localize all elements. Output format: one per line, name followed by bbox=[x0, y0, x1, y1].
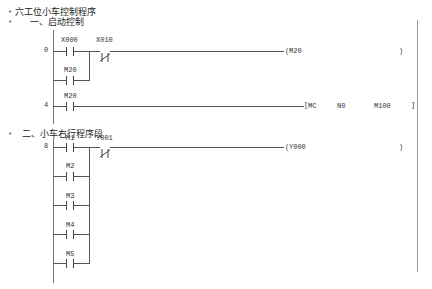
contact-label: M2 bbox=[66, 162, 74, 170]
instruction-arg-m100: M100 bbox=[374, 102, 391, 110]
contact-label: X010 bbox=[96, 36, 113, 44]
section1-comment: 一、启动控制 bbox=[30, 15, 84, 28]
contact-label: M5 bbox=[66, 250, 74, 258]
instruction-mc[interactable]: MC bbox=[308, 102, 316, 110]
contact-label: M4 bbox=[66, 221, 74, 229]
section2-comment: 二、小车右行程序段 bbox=[22, 127, 103, 140]
contact-label: M20 bbox=[64, 66, 77, 74]
comment-bullet: • bbox=[8, 130, 12, 138]
comment-bullet: • bbox=[8, 18, 12, 26]
coil-y000[interactable]: Y000 bbox=[289, 143, 306, 151]
comment-bullet: • bbox=[8, 8, 12, 16]
nc-contact-x010[interactable] bbox=[100, 47, 110, 56]
step-number: 0 bbox=[44, 46, 48, 54]
instruction-arg-n0: N0 bbox=[337, 102, 345, 110]
no-contact-m4[interactable] bbox=[66, 230, 74, 239]
nc-contact-y001[interactable] bbox=[100, 143, 110, 152]
left-power-rail bbox=[53, 30, 54, 124]
contact-label: M1 bbox=[66, 134, 74, 142]
step-number: 4 bbox=[44, 101, 48, 109]
no-contact-x000[interactable] bbox=[66, 47, 74, 56]
no-contact-m2[interactable] bbox=[66, 172, 74, 181]
contact-label: M20 bbox=[64, 92, 77, 100]
no-contact-m3[interactable] bbox=[66, 201, 74, 210]
no-contact-m20[interactable] bbox=[66, 76, 74, 85]
no-contact-m5[interactable] bbox=[66, 259, 74, 268]
no-contact-m1[interactable] bbox=[66, 143, 74, 152]
coil-close-bracket: ) bbox=[399, 143, 403, 151]
instruction-close-bracket: ] bbox=[411, 101, 415, 109]
branch-join bbox=[89, 147, 90, 264]
contact-label: X000 bbox=[61, 36, 78, 44]
contact-label: Y001 bbox=[96, 134, 113, 142]
coil-m20[interactable]: M20 bbox=[289, 47, 302, 55]
right-power-rail bbox=[417, 20, 418, 272]
no-contact-m20[interactable] bbox=[66, 102, 74, 111]
left-power-rail bbox=[53, 138, 54, 283]
branch-join bbox=[89, 51, 90, 81]
coil-close-bracket: ) bbox=[399, 47, 403, 55]
contact-label: M3 bbox=[66, 192, 74, 200]
step-number: 8 bbox=[44, 142, 48, 150]
